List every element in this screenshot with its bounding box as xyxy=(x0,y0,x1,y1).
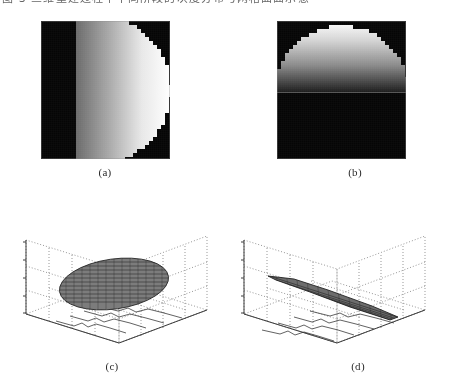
panel-label-b: (b) xyxy=(325,166,385,178)
mesh-plot-c-svg xyxy=(14,222,214,354)
image-panel-b xyxy=(277,21,406,159)
panel-label-a: (a) xyxy=(75,166,135,178)
figure-page: 图 3 三维重建过程中不同阶段的灰度分布与网格曲面示意 (a) (b) xyxy=(0,0,461,387)
axis-lines-d xyxy=(244,240,425,343)
panel-label-d: (d) xyxy=(328,360,388,372)
half-disc-a xyxy=(41,21,170,159)
mesh-plot-d xyxy=(232,222,432,354)
mesh-plot-c xyxy=(14,222,214,354)
clipped-caption-strip: 图 3 三维重建过程中不同阶段的灰度分布与网格曲面示意 xyxy=(0,0,461,12)
grid-box-d xyxy=(244,236,425,343)
half-disc-b xyxy=(277,21,406,159)
mesh-plot-d-svg xyxy=(232,222,432,354)
clipped-caption-text: 图 3 三维重建过程中不同阶段的灰度分布与网格曲面示意 xyxy=(2,0,310,5)
surface-mesh-c xyxy=(51,252,182,317)
panel-label-c: (c) xyxy=(82,360,142,372)
image-panel-a xyxy=(41,21,170,159)
